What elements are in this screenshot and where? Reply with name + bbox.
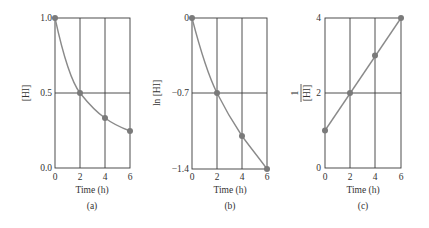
data-point	[372, 53, 378, 59]
panel-label: (c)	[358, 201, 369, 212]
y-tick-label: 4	[316, 13, 321, 23]
y-tick-label: −0.7	[172, 88, 189, 98]
y-tick-label: 0.0	[40, 163, 52, 173]
chart-c: 4 2 0 0 2 4 6 Time (h) (c) 1 [HI]	[290, 13, 404, 212]
figure: 1.0 0.5 0.0 0 2 4 6 Time (h) (a) [HI] 0 …	[0, 0, 429, 228]
x-tick-label: 6	[399, 172, 404, 182]
plot-frame-b	[192, 18, 267, 169]
y-tick-label: 0	[184, 13, 189, 23]
y-tick-label: 0.5	[40, 88, 52, 98]
y-tick-label: 2	[316, 88, 321, 98]
y-tick-label: 1.0	[40, 13, 52, 23]
x-tick-label: 6	[128, 172, 133, 182]
x-tick-label: 2	[78, 172, 83, 182]
panel-label: (b)	[224, 201, 235, 212]
data-point	[77, 90, 83, 96]
y-axis-label-denominator: [HI]	[302, 85, 312, 101]
y-axis-label: 1 [HI]	[290, 84, 312, 102]
x-axis-label: Time (h)	[75, 185, 108, 196]
data-point	[347, 90, 353, 96]
x-tick-label: 0	[190, 172, 195, 182]
x-axis-label: Time (h)	[213, 185, 246, 196]
data-point	[189, 15, 195, 21]
y-axis-label-numerator: 1	[290, 90, 300, 95]
y-tick-label: −1.4	[172, 164, 189, 174]
data-point	[322, 128, 328, 134]
data-line-c	[325, 18, 401, 131]
y-axis-label: ln [HI]	[152, 80, 162, 106]
x-tick-label: 4	[373, 172, 378, 182]
x-tick-label: 2	[348, 172, 353, 182]
x-tick-label: 0	[323, 172, 328, 182]
data-point	[239, 133, 245, 139]
x-tick-label: 0	[53, 172, 58, 182]
x-tick-label: 4	[240, 172, 245, 182]
data-point	[52, 15, 58, 21]
x-tick-label: 6	[265, 172, 270, 182]
x-tick-label: 4	[103, 172, 108, 182]
x-tick-label: 2	[215, 172, 220, 182]
y-tick-label: 0	[316, 163, 321, 173]
data-point	[214, 90, 220, 96]
chart-a: 1.0 0.5 0.0 0 2 4 6 Time (h) (a) [HI]	[21, 13, 133, 212]
data-curve-b	[192, 18, 267, 169]
panel-label: (a)	[87, 201, 98, 212]
data-curve-a	[55, 18, 130, 131]
x-axis-label: Time (h)	[346, 185, 379, 196]
data-point	[102, 115, 108, 121]
data-point	[398, 15, 404, 21]
data-point	[127, 128, 133, 134]
y-axis-label: [HI]	[21, 85, 31, 101]
chart-b: 0 −0.7 −1.4 0 2 4 6 Time (h) (b) ln [HI]	[152, 13, 270, 212]
